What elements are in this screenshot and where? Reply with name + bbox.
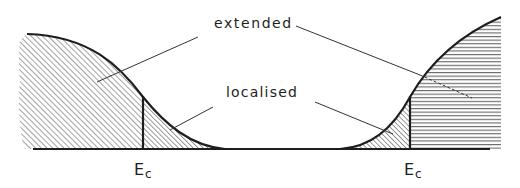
mobility-edge-right-label: Ec xyxy=(404,160,422,179)
right-extended-region xyxy=(410,17,501,149)
localised-leader-right xyxy=(315,102,393,134)
extended-leader-left xyxy=(97,37,198,82)
localised-label: localised xyxy=(226,84,298,100)
extended-leader-right xyxy=(296,26,420,75)
ec-main: E xyxy=(404,160,414,179)
extended-label: extended xyxy=(214,15,293,31)
ec-sub: c xyxy=(145,167,152,181)
localised-leader-left xyxy=(170,107,213,130)
right-localised-region xyxy=(340,97,410,149)
mobility-edge-left-label: Ec xyxy=(134,160,152,179)
ec-main: E xyxy=(134,160,144,179)
left-extended-region xyxy=(19,34,143,149)
ec-sub: c xyxy=(415,167,422,181)
